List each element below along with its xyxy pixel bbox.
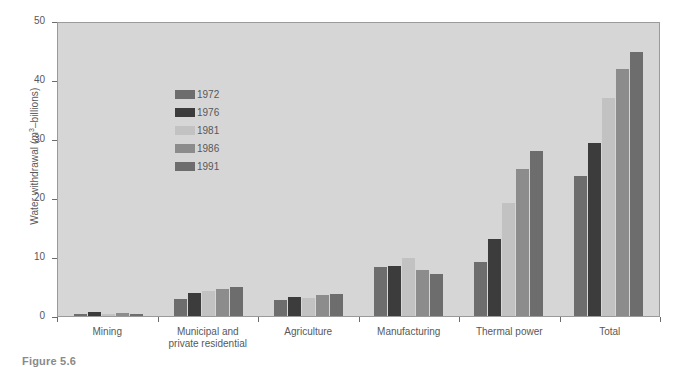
x-axis-category-label: Agriculture [258, 326, 359, 338]
legend-item: 1981 [175, 123, 219, 138]
legend-swatch [175, 108, 195, 117]
figure-container: Water withdrawal (m3–billions) 010203040… [0, 0, 676, 367]
x-axis-tick-mark [660, 317, 661, 322]
y-axis-tick-label: 40 [34, 74, 45, 85]
y-axis-title: Water withdrawal (m3–billions) [28, 36, 40, 276]
bar [288, 297, 301, 316]
legend: 19721976198119861991 [175, 87, 219, 177]
bar-group [359, 23, 459, 316]
x-axis-category-label-line: Municipal and [158, 326, 259, 338]
figure-caption: Figure 5.6 [22, 355, 76, 367]
legend-swatch [175, 126, 195, 135]
y-axis-title-pre: Water withdrawal (m [29, 132, 40, 225]
bar [230, 287, 243, 316]
legend-label: 1972 [197, 90, 219, 100]
x-axis-category-label-line: Thermal power [459, 326, 560, 338]
x-axis-tick-mark [158, 317, 159, 322]
bar [330, 294, 343, 316]
legend-swatch [175, 90, 195, 99]
x-axis-category-label-line: Mining [57, 326, 158, 338]
bar [502, 203, 515, 316]
legend-item: 1972 [175, 87, 219, 102]
bar [130, 314, 143, 316]
legend-swatch [175, 144, 195, 153]
y-axis-tick-label: 50 [34, 15, 45, 26]
x-axis-tick-mark [359, 317, 360, 322]
x-axis-category-label: Manufacturing [359, 326, 460, 338]
y-axis-title-superscript: 3 [28, 128, 35, 132]
bar-group [559, 23, 659, 316]
bar [188, 293, 201, 316]
legend-swatch [175, 162, 195, 171]
bar [630, 52, 643, 316]
legend-label: 1981 [197, 126, 219, 136]
x-axis-category-label: Total [560, 326, 661, 338]
x-axis-tick-mark [560, 317, 561, 322]
bar [88, 312, 101, 316]
x-axis-tick-mark [57, 317, 58, 322]
legend-item: 1976 [175, 105, 219, 120]
bar [302, 298, 315, 316]
y-axis-tick-label: 10 [34, 251, 45, 262]
bar [388, 266, 401, 316]
bar [416, 270, 429, 316]
bar [216, 289, 229, 316]
y-axis-tick-label: 0 [39, 310, 45, 321]
x-axis-category-label-line: Total [560, 326, 661, 338]
x-axis-tick-mark [459, 317, 460, 322]
plot-area: 19721976198119861991 [57, 22, 660, 317]
x-axis-category-label-line: Agriculture [258, 326, 359, 338]
legend-label: 1986 [197, 144, 219, 154]
bar [588, 143, 601, 316]
bar [488, 239, 501, 316]
bar [274, 300, 287, 316]
bar [74, 314, 87, 316]
bar [602, 98, 615, 316]
bar [202, 291, 215, 316]
y-axis-tick-label: 20 [34, 192, 45, 203]
legend-item: 1991 [175, 159, 219, 174]
y-axis-title-post: –billions) [29, 88, 40, 128]
legend-item: 1986 [175, 141, 219, 156]
x-axis-category-label: Mining [57, 326, 158, 338]
bar [174, 299, 187, 316]
x-axis-category-label-line: Manufacturing [359, 326, 460, 338]
bar [102, 314, 115, 316]
bar [474, 262, 487, 316]
x-axis-category-label-line: private residential [158, 338, 259, 350]
bar [516, 169, 529, 317]
bar [316, 295, 329, 316]
y-axis-tick-label: 30 [34, 133, 45, 144]
x-axis-tick-mark [258, 317, 259, 322]
bar [574, 176, 587, 316]
bar-group [258, 23, 358, 316]
bar [616, 69, 629, 316]
bar [116, 313, 129, 316]
bar [374, 267, 387, 316]
legend-label: 1976 [197, 108, 219, 118]
legend-label: 1991 [197, 162, 219, 172]
x-axis-category-label: Municipal andprivate residential [158, 326, 259, 350]
bar [430, 274, 443, 316]
bar [402, 258, 415, 316]
bar-group [58, 23, 158, 316]
x-axis-category-label: Thermal power [459, 326, 560, 338]
bar [530, 151, 543, 316]
bar-group [459, 23, 559, 316]
bar-series-container [58, 23, 659, 316]
